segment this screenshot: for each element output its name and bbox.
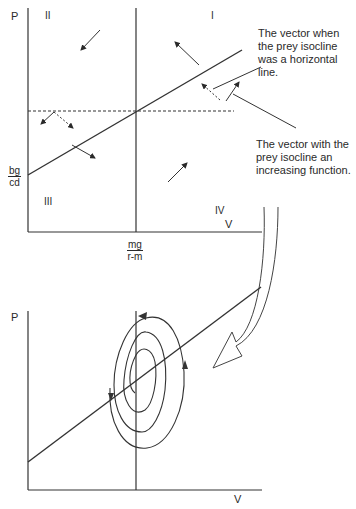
top-y-axis-label: P bbox=[11, 10, 18, 22]
vector-arrow-q4 bbox=[168, 163, 187, 182]
annotation-leader-increasing bbox=[233, 94, 296, 128]
x-isocline-numerator: mg bbox=[127, 239, 143, 251]
quadrant-label-i: I bbox=[211, 10, 214, 22]
spiral-arrow-left bbox=[108, 393, 114, 401]
vector-arrow-solid-q1 bbox=[226, 82, 239, 101]
top-phase-plane bbox=[28, 8, 296, 232]
vector-arrow-q1 bbox=[175, 42, 199, 65]
quadrant-label-iii: III bbox=[44, 196, 52, 208]
spiral-trajectory bbox=[110, 317, 184, 448]
x-isocline-fraction: mg r-m bbox=[127, 239, 143, 262]
vector-arrow-dashed-q1 bbox=[202, 84, 220, 100]
vector-arrow-q3-dashed bbox=[54, 112, 73, 128]
bottom-phase-plane bbox=[28, 287, 262, 490]
annotation-horizontal-vector: The vector when the prey isocline was a … bbox=[258, 27, 354, 79]
transition-arrow bbox=[213, 207, 278, 368]
x-isocline-denominator: r-m bbox=[127, 251, 143, 262]
top-x-axis-label: V bbox=[225, 218, 232, 230]
annotation-increasing-vector: The vector with the prey isocline an inc… bbox=[256, 138, 356, 177]
quadrant-label-ii: II bbox=[45, 10, 51, 22]
quadrant-label-iv: IV bbox=[215, 205, 224, 217]
bottom-x-axis-label: V bbox=[234, 493, 241, 505]
bottom-y-axis-label: P bbox=[11, 311, 18, 323]
y-intercept-numerator: bg bbox=[8, 165, 21, 177]
prey-isocline-increasing bbox=[28, 50, 242, 175]
vector-arrow-q3-solid bbox=[41, 112, 54, 124]
vector-arrow-crossing bbox=[72, 145, 95, 158]
vector-arrow-q2 bbox=[81, 30, 100, 50]
y-intercept-fraction: bg cd bbox=[8, 165, 21, 188]
y-intercept-denominator: cd bbox=[8, 177, 21, 188]
